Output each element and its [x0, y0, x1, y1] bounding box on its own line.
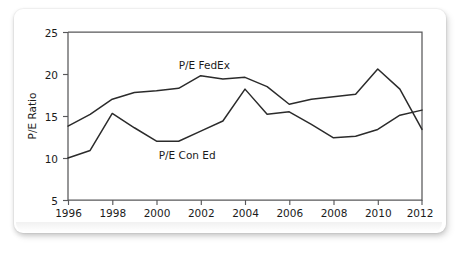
x-tick-label-1998: 1998	[99, 207, 126, 219]
y-tick-label-25: 25	[45, 27, 58, 39]
x-tick-labels: 1996 1998 2000 2002 2004 2006 2008 2010 …	[55, 207, 433, 219]
figure-root: 25 20 15 10 5 1996 1998 2000 2002 2004 2…	[0, 0, 466, 255]
y-tick-marks	[63, 33, 68, 201]
line-chart: 25 20 15 10 5 1996 1998 2000 2002 2004 2…	[0, 0, 466, 255]
y-tick-label-5: 5	[51, 195, 58, 207]
series-line-pe-fedex	[68, 69, 422, 129]
y-axis-title: P/E Ratio	[26, 93, 38, 140]
x-tick-label-1996: 1996	[55, 207, 82, 219]
x-tick-label-2004: 2004	[232, 207, 259, 219]
y-tick-labels: 25 20 15 10 5	[45, 27, 58, 207]
x-tick-label-2002: 2002	[188, 207, 215, 219]
series-line-pe-con-ed	[68, 89, 422, 158]
y-tick-label-10: 10	[45, 153, 58, 165]
plot-axes	[68, 32, 422, 200]
series-annotation-pe-con-ed: P/E Con Ed	[159, 149, 216, 161]
axis-frame	[68, 32, 422, 200]
x-tick-marks	[69, 200, 423, 205]
x-tick-label-2008: 2008	[321, 207, 348, 219]
x-tick-label-2006: 2006	[276, 207, 303, 219]
series-annotation-pe-fedex: P/E FedEx	[179, 59, 230, 71]
x-tick-label-2012: 2012	[407, 207, 434, 219]
x-tick-label-2000: 2000	[144, 207, 171, 219]
x-tick-label-2010: 2010	[365, 207, 392, 219]
y-tick-label-15: 15	[45, 111, 58, 123]
y-tick-label-20: 20	[45, 69, 58, 81]
